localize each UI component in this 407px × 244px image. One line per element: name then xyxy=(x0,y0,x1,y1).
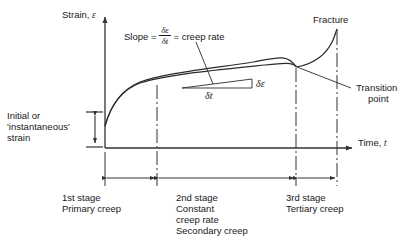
transition-point-label: Transition point xyxy=(356,82,397,104)
initial-strain-line2: 'instantaneous' xyxy=(7,121,70,132)
initial-strain-dimension xyxy=(86,112,103,147)
stage-2-line1: 2nd stage xyxy=(176,192,248,203)
fracture-label: Fracture xyxy=(313,14,348,25)
slope-prefix: Slope = xyxy=(124,31,157,42)
slope-suffix: = creep rate xyxy=(174,31,225,42)
slope-leader-line xyxy=(196,42,213,84)
creep-curve-diagram: Strain, ε Time, t Slope = δε δt = creep … xyxy=(0,0,407,244)
stage-1-line1: 1st stage xyxy=(62,192,121,203)
stage-2-caption: 2nd stage Constant creep rate Secondary … xyxy=(176,192,248,236)
slope-fraction: δε δt xyxy=(159,25,171,46)
transition-point-line2: point xyxy=(356,93,397,104)
stage-2-line4: Secondary creep xyxy=(176,225,248,236)
stage-3-line2: Tertiary creep xyxy=(286,203,344,214)
delta-t-label: δt xyxy=(205,90,212,101)
transition-leader-line xyxy=(297,67,351,88)
x-axis-label: Time, t xyxy=(358,137,387,149)
stage-3-line1: 3rd stage xyxy=(286,192,344,203)
stage-2-line3: creep rate xyxy=(176,214,248,225)
stage-2-line2: Constant xyxy=(176,203,248,214)
slope-annotation: Slope = δε δt = creep rate xyxy=(124,26,224,47)
initial-strain-line3: strain xyxy=(7,132,70,143)
initial-strain-label: Initial or 'instantaneous' strain xyxy=(7,110,70,143)
stage-1-caption: 1st stage Primary creep xyxy=(62,192,121,214)
stage-1-line2: Primary creep xyxy=(62,203,121,214)
initial-strain-line1: Initial or xyxy=(7,110,70,121)
y-axis-label: Strain, ε xyxy=(62,9,96,21)
delta-epsilon-label: δε xyxy=(256,78,265,89)
stage-3-caption: 3rd stage Tertiary creep xyxy=(286,192,344,214)
slope-denominator: δt xyxy=(159,36,171,46)
slope-triangle xyxy=(182,79,252,88)
slope-numerator: δε xyxy=(159,25,171,36)
transition-point-line1: Transition xyxy=(356,82,397,93)
